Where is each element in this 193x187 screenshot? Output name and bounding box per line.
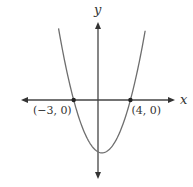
y-axis-arrow-top bbox=[95, 22, 101, 29]
intercept-points: (−3, 0)(4, 0) bbox=[33, 98, 161, 117]
y-axis-label: y bbox=[93, 2, 102, 17]
parabola-chart: (−3, 0)(4, 0) x y bbox=[0, 0, 193, 187]
intercept-label: (4, 0) bbox=[131, 104, 161, 117]
y-axis-arrow-bottom bbox=[95, 172, 101, 179]
intercept-point bbox=[128, 98, 132, 102]
x-axis-arrow-right bbox=[168, 97, 175, 103]
axes bbox=[21, 22, 175, 179]
intercept-label: (−3, 0) bbox=[33, 104, 72, 117]
x-axis-arrow-left bbox=[21, 97, 28, 103]
intercept-point bbox=[71, 98, 75, 102]
x-axis-label: x bbox=[180, 92, 188, 107]
parabola-curve bbox=[59, 28, 146, 152]
